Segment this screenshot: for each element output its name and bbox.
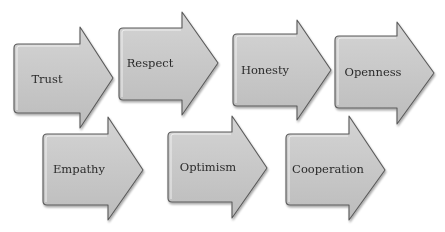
arrow-cooperation: Cooperation xyxy=(286,116,385,220)
arrow-shape-trust xyxy=(14,27,113,128)
arrow-respect: Respect xyxy=(119,12,218,115)
arrow-label-respect: Respect xyxy=(127,56,174,70)
arrow-label-cooperation: Cooperation xyxy=(292,162,364,176)
arrow-openness: Openness xyxy=(335,22,434,124)
values-arrow-diagram: Trust Respect Honesty Openness Empathy O… xyxy=(0,0,445,232)
arrow-label-trust: Trust xyxy=(31,72,62,86)
arrow-trust: Trust xyxy=(14,27,113,128)
arrow-honesty: Honesty xyxy=(233,20,331,120)
arrow-label-optimism: Optimism xyxy=(180,160,237,174)
arrow-label-empathy: Empathy xyxy=(53,162,106,176)
arrow-empathy: Empathy xyxy=(43,117,143,220)
arrow-label-honesty: Honesty xyxy=(241,63,290,77)
arrow-label-openness: Openness xyxy=(344,65,401,79)
arrow-optimism: Optimism xyxy=(168,116,267,218)
